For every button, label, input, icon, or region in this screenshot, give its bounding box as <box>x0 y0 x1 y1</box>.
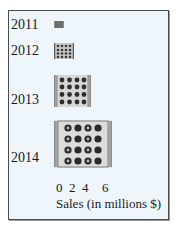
x-axis-ticks: 0 2 4 6 <box>56 180 126 196</box>
rug-icon-2013 <box>54 75 91 107</box>
x-tick-0: 0 <box>56 180 63 196</box>
rug-icon-2012 <box>54 43 74 59</box>
x-tick-6: 6 <box>102 180 109 196</box>
rug-icon-2014 <box>54 120 112 168</box>
year-label-2011: 2011 <box>11 17 38 33</box>
x-axis-label: Sales (in millions $) <box>56 196 161 212</box>
rug-icon-2011 <box>54 21 64 28</box>
x-tick-4: 4 <box>82 180 89 196</box>
x-tick-2: 2 <box>69 180 76 196</box>
year-label-2013: 2013 <box>11 92 39 108</box>
year-label-2014: 2014 <box>11 150 39 166</box>
year-label-2012: 2012 <box>11 43 39 59</box>
